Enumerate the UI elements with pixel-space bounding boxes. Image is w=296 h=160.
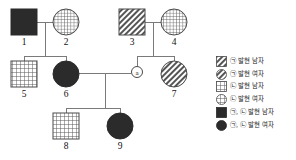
individual-7-label: 7 — [163, 89, 185, 99]
individual-6-label: 6 — [55, 89, 77, 99]
legend-label-hatch-circle: ㉠ 발현 여자 — [230, 71, 264, 78]
legend-row-hatch-circle: ㉠ 발현 여자 — [216, 68, 296, 81]
legend-label-solid-circle: ㉠, ㉡ 발현 여자 — [230, 122, 274, 129]
individual-1-label: 1 — [13, 37, 35, 47]
legend-row-hatch-square: ㉠ 발현 남자 — [216, 55, 296, 68]
grid-square-icon — [216, 81, 227, 92]
individual-3-symbol — [119, 9, 145, 35]
individual-2-label: 2 — [55, 37, 77, 47]
individual-4-symbol — [161, 9, 187, 35]
legend-label-grid-circle: ㉡ 발현 여자 — [230, 96, 264, 103]
legend-row-grid-circle: ㉡ 발현 여자 — [216, 93, 296, 106]
connector-lines — [24, 22, 174, 113]
solid-circle-icon — [216, 120, 227, 131]
legend-label-hatch-square: ㉠ 발현 남자 — [230, 58, 264, 65]
grid-circle-icon — [216, 94, 227, 105]
individual-4-label: 4 — [163, 37, 185, 47]
diagonal-hatch-square-icon — [216, 56, 227, 67]
legend-row-solid-square: ㉠, ㉡ 발현 남자 — [216, 106, 296, 119]
individual-7-symbol — [161, 61, 187, 87]
solid-square-icon — [216, 107, 227, 118]
individual-8-symbol — [53, 113, 79, 139]
legend-label-grid-square: ㉡ 발현 남자 — [230, 83, 264, 90]
pedigree-chart: a 1 2 3 4 5 6 7 8 9 ㉠ 발현 남자 ㉠ 발현 여자 ㉡ 발현… — [0, 0, 296, 160]
legend-row-grid-square: ㉡ 발현 남자 — [216, 81, 296, 94]
individual-9-symbol — [107, 113, 133, 139]
individual-8-label: 8 — [55, 141, 77, 151]
legend-label-solid-square: ㉠, ㉡ 발현 남자 — [230, 109, 274, 116]
legend-row-solid-circle: ㉠, ㉡ 발현 여자 — [216, 119, 296, 132]
diagonal-hatch-circle-icon — [216, 69, 227, 80]
legend: ㉠ 발현 남자 ㉠ 발현 여자 ㉡ 발현 남자 ㉡ 발현 여자 ㉠, ㉡ 발현 — [216, 55, 296, 132]
individual-9-label: 9 — [109, 141, 131, 151]
individual-5-label: 5 — [13, 89, 35, 99]
individual-3-label: 3 — [121, 37, 143, 47]
individual-2-symbol — [53, 9, 79, 35]
individual-1-symbol — [11, 9, 37, 35]
individual-5-symbol — [11, 61, 37, 87]
individual-6-symbol — [53, 61, 79, 87]
